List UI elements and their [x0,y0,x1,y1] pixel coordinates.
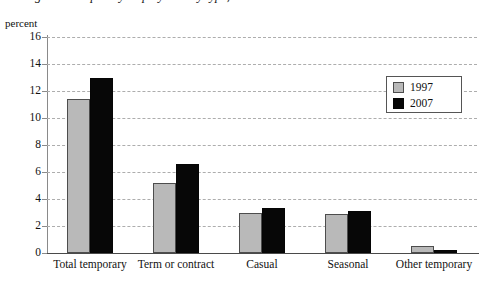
y-axis-unit-label: percent [5,17,37,29]
y-axis-tick [42,226,47,227]
bar-1997-term-or-contract [153,183,176,253]
legend-swatch-1997-icon [393,82,404,93]
bar-chart: Figure 1 Temporary employment by type, 1… [0,0,485,287]
x-axis-label-total-temporary: Total temporary [47,258,133,271]
x-axis-category-labels: Total temporaryTerm or contractCasualSea… [47,258,477,280]
x-axis-label-term-or-contract: Term or contract [133,258,219,271]
bar-2007-total-temporary [90,78,113,254]
x-axis-label-casual: Casual [219,258,305,271]
y-axis-tick [42,253,47,254]
bar-2007-casual [262,208,285,253]
bar-1997-seasonal [325,214,348,253]
x-axis-label-seasonal: Seasonal [305,258,391,271]
y-axis-tick [42,64,47,65]
plot-area [47,37,477,253]
y-axis-tick [42,172,47,173]
bar-1997-casual [239,213,262,254]
y-axis-tick-label: 6 [1,166,41,178]
bar-2007-term-or-contract [176,164,199,253]
bar-1997-other-temporary [411,246,434,253]
y-axis-tick-labels: 0246810121416 [0,37,41,253]
chart-title-clipped: Figure 1 Temporary employment by type, 1… [0,0,485,9]
y-axis-tick [42,145,47,146]
y-axis-tick [42,118,47,119]
y-axis-tick-label: 12 [1,85,41,97]
gridline [47,64,477,65]
x-axis-label-other-temporary: Other temporary [391,258,477,271]
bar-2007-other-temporary [434,250,457,253]
y-axis-tick [42,91,47,92]
y-axis-tick [42,37,47,38]
legend-label-2007: 2007 [410,96,433,110]
y-axis-tick-label: 14 [1,58,41,70]
y-axis-tick-label: 0 [1,247,41,259]
legend-swatch-2007-icon [393,98,404,109]
legend: 1997 2007 [386,76,462,113]
bar-1997-total-temporary [67,99,90,253]
y-axis-tick-label: 8 [1,139,41,151]
bar-2007-seasonal [348,211,371,253]
y-axis-tick [42,199,47,200]
y-axis-tick-label: 4 [1,193,41,205]
y-axis-tick-label: 2 [1,220,41,232]
chart-title: Figure 1 Temporary employment by type, 1… [24,0,308,4]
legend-label-1997: 1997 [410,80,433,94]
gridline [47,37,477,38]
y-axis-tick-label: 10 [1,112,41,124]
y-axis-tick-label: 16 [1,31,41,43]
x-axis-baseline [45,253,479,254]
